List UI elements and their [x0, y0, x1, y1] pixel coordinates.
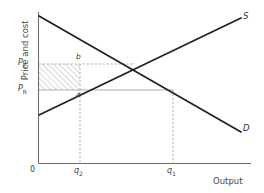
xtick-q1-sub: 1	[172, 170, 176, 177]
point-label-a: a	[76, 91, 81, 99]
point-label-b: b	[76, 53, 81, 61]
xtick-q2-sub: 2	[79, 170, 83, 177]
demand-curve-label: D	[243, 124, 250, 133]
xtick-label-quantity-2: q2	[74, 167, 83, 177]
ytick-label-price-e: PE	[18, 59, 27, 69]
xtick-label-quantity-1: q1	[167, 167, 176, 177]
supply-curve-label: S	[243, 12, 248, 21]
y-axis-label: Price and cost	[21, 12, 30, 88]
hatched-area	[39, 64, 81, 90]
ytick-label-price-r: PR	[18, 85, 27, 95]
ytick-price-r-sub: R	[23, 88, 27, 95]
origin-label: 0	[30, 166, 35, 174]
figure-container: Price and cost Output 0 PE PR q2 q1 S D …	[0, 0, 264, 193]
x-axis-label: Output	[213, 177, 243, 186]
supply-demand-chart	[0, 0, 264, 193]
ytick-price-e-sub: E	[23, 62, 27, 69]
